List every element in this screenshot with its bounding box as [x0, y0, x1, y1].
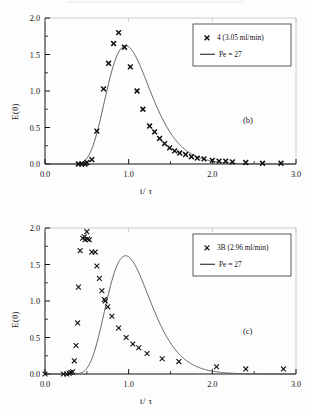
panel-label-b: (b) [243, 115, 253, 125]
x-tick-label: 0.0 [40, 170, 50, 179]
legend-entry-scatter: 4 (3.05 ml/min) [217, 33, 264, 42]
x-tick-label: 1.0 [124, 380, 134, 389]
y-tick-label: 0.0 [30, 370, 40, 379]
panel-label-c: (c) [243, 326, 252, 336]
chart-panel-c: 0.01.02.03.00.00.51.01.52.03B (2.96 ml/m… [0, 208, 310, 414]
y-axis-label-b: E(θ) [10, 103, 20, 120]
x-tick-label: 3.0 [291, 170, 301, 179]
legend-box [193, 234, 291, 276]
chart-panel-b: 0.01.02.03.00.00.51.01.52.04 (3.05 ml/mi… [0, 2, 310, 202]
figure-container: 0.01.02.03.00.00.51.01.52.04 (3.05 ml/mi… [0, 0, 310, 414]
x-tick-label: 2.0 [207, 380, 217, 389]
x-axis-label-c: t/ τ [140, 396, 152, 406]
legend-entry-scatter: 3B (2.96 ml/min) [217, 243, 269, 252]
plot-area-b: 0.01.02.03.00.00.51.01.52.04 (3.05 ml/mi… [0, 2, 310, 202]
x-tick-label: 2.0 [207, 170, 217, 179]
y-tick-label: 1.5 [30, 51, 40, 60]
plot-area-c: 0.01.02.03.00.00.51.01.52.03B (2.96 ml/m… [0, 208, 310, 414]
legend-box [193, 24, 291, 66]
y-tick-label: 2.0 [30, 14, 40, 23]
x-tick-label: 1.0 [124, 170, 134, 179]
y-tick-label: 2.0 [30, 224, 40, 233]
legend-entry-model: Pe = 27 [219, 260, 242, 269]
x-axis-label-b: t/ τ [140, 186, 152, 196]
y-tick-label: 0.0 [30, 160, 40, 169]
x-tick-label: 0.0 [40, 380, 50, 389]
y-tick-label: 1.5 [30, 261, 40, 270]
x-tick-label: 3.0 [291, 380, 301, 389]
y-tick-label: 1.0 [30, 87, 40, 96]
y-tick-label: 0.5 [30, 124, 40, 133]
y-tick-label: 0.5 [30, 334, 40, 343]
y-axis-label-c: E(θ) [10, 311, 20, 328]
y-tick-label: 1.0 [30, 297, 40, 306]
legend-entry-model: Pe = 27 [219, 50, 242, 59]
